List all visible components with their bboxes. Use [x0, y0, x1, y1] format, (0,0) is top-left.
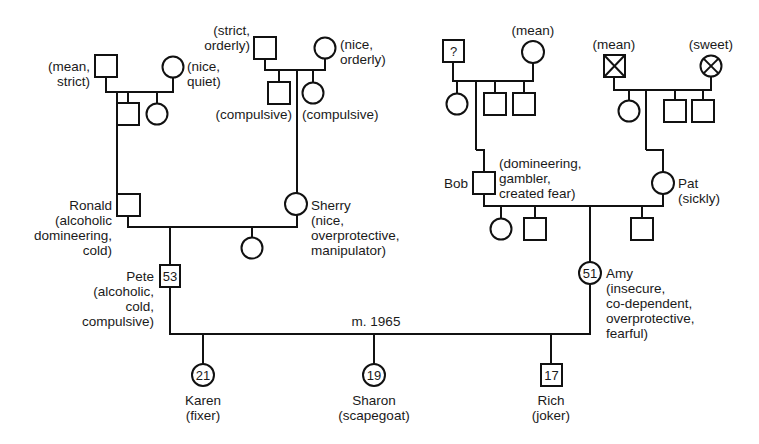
- trait-label: quiet): [187, 74, 221, 89]
- amy-age: 51: [583, 266, 597, 281]
- rich-age: 17: [544, 368, 558, 383]
- pete-parents: Ronald (alcoholic domineering, cold) She…: [34, 193, 400, 265]
- ronald-trait: (alcoholic: [55, 213, 112, 228]
- pete-amy-marriage: m. 1965 53 Pete (alcoholic, cold, compul…: [82, 262, 695, 364]
- ronald-trait: domineering,: [34, 228, 112, 243]
- sharon-role: (scapegoat): [338, 408, 409, 423]
- pat-symbol: [652, 172, 674, 194]
- female-symbol: [522, 41, 544, 63]
- pete-trait: cold,: [125, 299, 154, 314]
- female-symbol: [163, 57, 184, 78]
- paternal-grandparents-amy: ? (mean): [443, 23, 554, 172]
- trait-label: (sweet): [689, 37, 733, 52]
- ronald-name: Ronald: [69, 198, 112, 213]
- rich-name: Rich: [537, 393, 564, 408]
- unknown-mark: ?: [450, 44, 457, 59]
- karen-age: 21: [196, 368, 210, 383]
- female-symbol: [619, 101, 640, 122]
- bob-symbol: [473, 172, 495, 194]
- amy-name: Amy: [606, 266, 633, 281]
- male-symbol: [692, 100, 714, 122]
- sharon-age: 19: [367, 368, 381, 383]
- pete-name: Pete: [126, 269, 154, 284]
- pete-trait: (alcoholic,: [93, 284, 154, 299]
- trait-label: (compulsive): [302, 107, 379, 122]
- female-symbol: [147, 104, 168, 125]
- children: 21 Karen (fixer) 19 Sharon (scapegoat) 1…: [185, 364, 570, 423]
- maternal-grandparents-pete: (strict, orderly) (nice, orderly) (compu…: [204, 23, 386, 193]
- trait-label: (strict,: [213, 23, 250, 38]
- sherry-trait: overprotective,: [311, 228, 400, 243]
- female-symbol: [303, 83, 324, 104]
- paternal-grandparents-pete: (mean, strict) (nice, quiet): [48, 55, 221, 194]
- male-symbol: [268, 82, 290, 104]
- karen-name: Karen: [185, 393, 221, 408]
- male-symbol: [254, 37, 276, 59]
- trait-label: (compulsive): [215, 107, 292, 122]
- trait-label: (mean): [512, 23, 555, 38]
- ronald-trait: cold): [83, 243, 112, 258]
- sherry-symbol: [285, 193, 307, 215]
- trait-label: (mean): [593, 37, 636, 52]
- trait-label: (nice,: [340, 37, 373, 52]
- sharon-name: Sharon: [352, 393, 396, 408]
- trait-label: orderly): [204, 38, 250, 53]
- male-symbol: [664, 100, 686, 122]
- male-symbol: [95, 55, 117, 77]
- trait-label: (mean,: [48, 59, 90, 74]
- sherry-trait: (nice,: [311, 213, 344, 228]
- male-symbol: [513, 93, 535, 115]
- male-symbol: [524, 218, 546, 240]
- rich-role: (joker): [532, 408, 570, 423]
- genogram-diagram: (mean, strict) (nice, quiet) (strict, or…: [0, 0, 759, 444]
- maternal-grandparents-amy: (mean) (sweet): [593, 37, 734, 172]
- female-symbol: [315, 38, 336, 59]
- ronald-symbol: [117, 194, 140, 216]
- karen-role: (fixer): [186, 408, 221, 423]
- female-symbol: [447, 94, 468, 115]
- trait-label: (nice,: [187, 59, 220, 74]
- amy-trait: co-dependent,: [606, 296, 692, 311]
- male-symbol: [484, 93, 506, 115]
- amy-trait: (insecure,: [606, 281, 665, 296]
- sherry-name: Sherry: [311, 198, 351, 213]
- male-symbol: [117, 103, 139, 125]
- pete-trait: compulsive): [82, 314, 154, 329]
- male-symbol: [631, 218, 653, 240]
- amy-trait: overprotective,: [606, 311, 695, 326]
- marriage-label: m. 1965: [352, 314, 401, 329]
- pat-name: Pat: [678, 176, 699, 191]
- trait-label: strict): [57, 74, 90, 89]
- bob-name: Bob: [444, 176, 468, 191]
- amy-parents: Bob (domineering, gambler, created fear)…: [444, 156, 720, 262]
- amy-trait: fearful): [606, 326, 648, 341]
- pete-age: 53: [163, 269, 177, 284]
- trait-label: orderly): [340, 52, 386, 67]
- bob-trait: gambler,: [499, 171, 551, 186]
- bob-trait: (domineering,: [499, 156, 582, 171]
- female-symbol: [491, 219, 512, 240]
- female-symbol: [242, 238, 263, 259]
- bob-trait: created fear): [499, 186, 576, 201]
- sherry-trait: manipulator): [311, 243, 386, 258]
- pat-trait: (sickly): [678, 191, 720, 206]
